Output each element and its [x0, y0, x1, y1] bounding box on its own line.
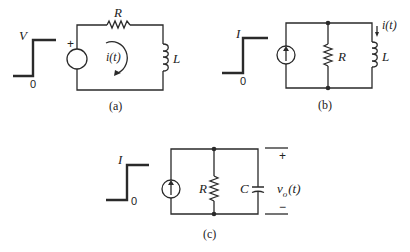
- inductor-a: [163, 44, 168, 71]
- resistor-b: [324, 44, 332, 66]
- resistor-label-c: R: [199, 182, 207, 195]
- node-b-bottom: [326, 86, 331, 91]
- step-level-label-a: V: [19, 29, 27, 42]
- branch-arrowhead-icon: [375, 32, 379, 37]
- caption-b: (b): [318, 99, 332, 111]
- node-c-bottom: [212, 212, 217, 217]
- wire-b-top: [286, 23, 372, 46]
- output-voltage-subscript: o: [283, 189, 288, 199]
- resistor-label-b: R: [338, 50, 346, 63]
- branch-current-label-b: i(t): [382, 19, 397, 31]
- output-voltage-arg: (t): [288, 181, 300, 196]
- circuit-a: [13, 21, 168, 90]
- node-b-top: [326, 21, 331, 26]
- inductor-label-a: L: [173, 52, 180, 65]
- step-input-c: [106, 165, 149, 200]
- output-voltage-label: vo(t): [277, 182, 301, 199]
- loop-arrowhead-icon: [114, 70, 121, 76]
- node-c-top: [212, 147, 217, 152]
- capacitor-label-c: C: [240, 182, 249, 195]
- step-origin-label-b: 0: [240, 76, 246, 87]
- caption-a: (a): [109, 100, 122, 112]
- circuit-figure: V 0 + R L i(t) (a) I 0 R L i(t) (b) I 0 …: [0, 0, 410, 252]
- voltage-source-a: [67, 49, 87, 69]
- loop-current-label-a: i(t): [106, 51, 121, 63]
- step-origin-label-c: 0: [131, 196, 137, 207]
- step-level-label-c: I: [118, 153, 122, 166]
- output-minus-label: −: [279, 201, 286, 213]
- source-polarity-label-a: +: [67, 38, 74, 50]
- capacitor-c: [252, 187, 264, 193]
- resistor-c: [210, 176, 218, 201]
- caption-c: (c): [203, 228, 216, 240]
- output-plus-label: +: [279, 150, 286, 162]
- inductor-label-b: L: [382, 50, 389, 63]
- wire-a-left-top: [77, 25, 107, 49]
- step-input-b: [222, 38, 268, 73]
- resistor-a: [107, 21, 130, 28]
- step-origin-label-a: 0: [30, 79, 36, 90]
- step-level-label-b: I: [236, 27, 240, 40]
- resistor-label-a: R: [114, 6, 122, 19]
- inductor-b: [372, 42, 377, 67]
- wire-b-bottom: [286, 64, 372, 88]
- step-input-a: [13, 40, 56, 76]
- wire-a-top-right: [130, 25, 163, 44]
